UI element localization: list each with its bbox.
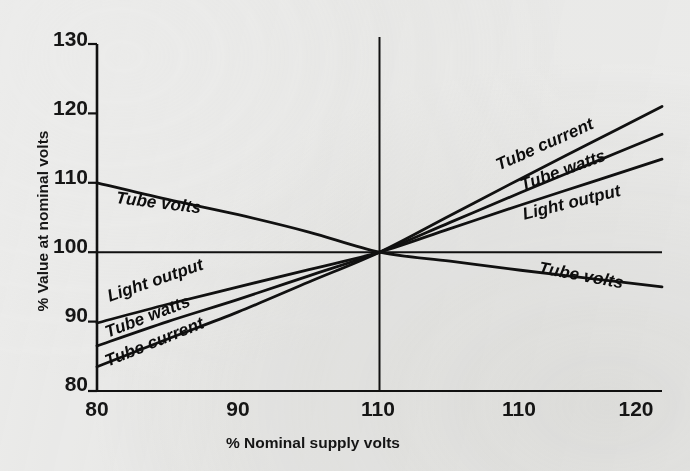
y-tick-label: 80 [30, 372, 88, 396]
y-axis-title: % Value at nominal volts [34, 116, 52, 326]
x-tick-label: 110 [484, 397, 554, 421]
x-axis-title: % Nominal supply volts [226, 434, 400, 452]
x-tick-label: 90 [203, 397, 273, 421]
x-tick-label: 120 [601, 397, 671, 421]
x-tick-label: 80 [62, 397, 132, 421]
x-tick-label: 110 [343, 397, 413, 421]
y-tick-label: 130 [30, 27, 88, 51]
figure-scanned-chart: 130 120 110 100 90 80 80 90 110 110 120 … [0, 0, 690, 471]
